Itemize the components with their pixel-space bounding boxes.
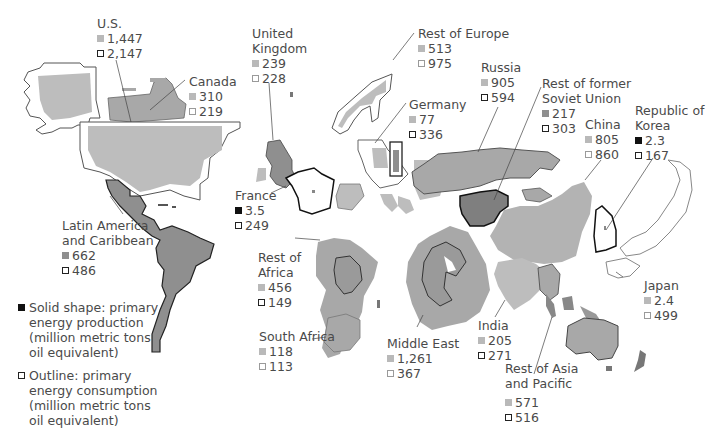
outline-square-icon [18, 372, 25, 379]
label-japan: Japan 2.4 499 [644, 278, 679, 323]
consumption-swatch [635, 152, 642, 159]
france-region [286, 168, 334, 214]
label-rest-asia-pacific: Rest of Asia and Pacific 571 516 [505, 361, 578, 425]
label-france: France 3.5 249 [235, 188, 277, 233]
legend: Solid shape: primary energy production (… [18, 300, 158, 428]
legend-consumption-line: energy consumption [29, 383, 157, 398]
label-latin-america: Latin America and Caribbean 662 486 [62, 218, 154, 278]
label-germany: Germany 77 336 [409, 97, 466, 142]
label-us: U.S. 1,447 2,147 [97, 16, 143, 61]
region-name: Canada [189, 74, 237, 89]
consumption-swatch [252, 75, 259, 82]
germany-region [390, 142, 402, 176]
label-middle-east: Middle East 1,261 367 [387, 336, 459, 381]
region-name-line2: Soviet Union [542, 91, 631, 106]
region-name-line1: Republic of [635, 103, 704, 118]
region-name-line1: Latin America [62, 218, 154, 233]
legend-production-line: energy production [29, 315, 158, 330]
us-region [80, 122, 240, 200]
production-value: 310 [199, 89, 223, 104]
production-swatch [409, 116, 416, 123]
consumption-swatch [644, 312, 651, 319]
japan-region [606, 160, 692, 278]
production-swatch [505, 399, 512, 406]
consumption-value: 499 [654, 308, 678, 323]
region-name: Germany [409, 97, 466, 112]
region-name: India [478, 318, 512, 333]
production-swatch [542, 110, 549, 117]
production-value: 805 [595, 132, 619, 147]
region-name-line2: Africa [258, 265, 301, 280]
middle-east-region [406, 226, 490, 330]
label-republic-of-korea: Republic of Korea 2.3 167 [635, 103, 704, 163]
region-name-line1: Rest of Asia [505, 361, 578, 376]
consumption-value: 367 [397, 366, 421, 381]
region-name: Japan [644, 278, 679, 293]
consumption-swatch [505, 414, 512, 421]
label-uk: United Kingdom 239 228 [252, 26, 307, 86]
consumption-swatch [481, 94, 488, 101]
consumption-value: 167 [645, 148, 669, 163]
production-swatch [189, 93, 196, 100]
consumption-swatch [542, 125, 549, 132]
region-name: Russia [481, 60, 521, 75]
consumption-swatch [258, 299, 265, 306]
region-name: China [585, 117, 621, 132]
consumption-swatch [409, 131, 416, 138]
consumption-value: 219 [199, 104, 223, 119]
production-swatch [62, 252, 69, 259]
region-name: Rest of Europe [418, 26, 509, 41]
scandinavia-region [332, 74, 392, 134]
consumption-swatch [235, 222, 242, 229]
consumption-value: 228 [262, 71, 286, 86]
consumption-swatch [478, 352, 485, 359]
consumption-value: 594 [491, 90, 515, 105]
canada-region [108, 78, 186, 122]
india-region [494, 258, 546, 310]
legend-consumption-line: Outline: primary [29, 368, 157, 383]
region-name-line2: and Pacific [505, 376, 578, 391]
production-swatch [478, 337, 485, 344]
region-name: U.S. [97, 16, 143, 31]
production-swatch [97, 35, 104, 42]
production-swatch [258, 284, 265, 291]
production-value: 1,447 [107, 31, 143, 46]
production-swatch [235, 207, 242, 214]
region-name-line2: Korea [635, 118, 704, 133]
production-value: 3.5 [245, 203, 265, 218]
region-name-line2: Kingdom [252, 41, 307, 56]
production-value: 118 [269, 344, 293, 359]
rest-asia-pacific-region [538, 264, 646, 372]
production-swatch [585, 136, 592, 143]
production-value: 513 [428, 41, 452, 56]
consumption-value: 336 [419, 127, 443, 142]
production-value: 905 [491, 75, 515, 90]
consumption-swatch [97, 50, 104, 57]
consumption-swatch [259, 363, 266, 370]
consumption-value: 975 [428, 56, 452, 71]
production-value: 77 [419, 112, 435, 127]
label-india: India 205 271 [478, 318, 512, 363]
production-swatch [635, 137, 642, 144]
region-name: Middle East [387, 336, 459, 351]
production-swatch [481, 79, 488, 86]
consumption-swatch [387, 370, 394, 377]
production-value: 2.3 [645, 133, 665, 148]
legend-consumption-line: (million metric tons [29, 398, 157, 413]
production-swatch [387, 355, 394, 362]
consumption-swatch [62, 267, 69, 274]
region-name-line1: Rest of former [542, 76, 631, 91]
legend-consumption: Outline: primary energy consumption (mil… [18, 368, 158, 428]
region-name: France [235, 188, 277, 203]
production-swatch [252, 60, 259, 67]
consumption-value: 249 [245, 218, 269, 233]
legend-production: Solid shape: primary energy production (… [18, 300, 158, 360]
consumption-value: 149 [268, 295, 292, 310]
production-value: 571 [515, 395, 539, 410]
production-value: 456 [268, 280, 292, 295]
legend-production-line: (million metric tons [29, 330, 158, 345]
consumption-value: 486 [72, 263, 96, 278]
production-value: 1,261 [397, 351, 433, 366]
consumption-value: 860 [595, 147, 619, 162]
region-name: South Africa [259, 329, 335, 344]
